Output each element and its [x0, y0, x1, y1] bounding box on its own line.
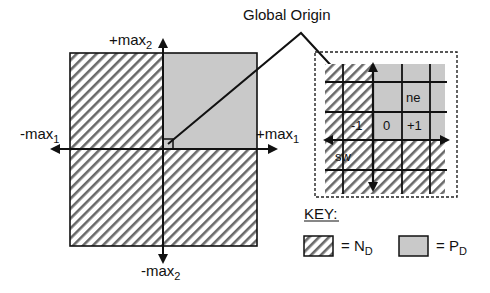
y-axis-neg-label: -max2	[141, 263, 180, 278]
cell-ne: ne	[406, 91, 420, 104]
diagram-canvas	[0, 0, 490, 293]
cell-minus-one: -1	[351, 119, 363, 132]
y-axis-pos-label: +max2	[109, 32, 152, 47]
cell-zero: 0	[383, 119, 390, 132]
key-swatch-shaded	[399, 236, 428, 256]
positive-quadrant	[163, 53, 257, 149]
cell-plus-one: +1	[407, 119, 422, 132]
cell-sw: sw	[335, 150, 351, 163]
key-swatch-hatched	[304, 236, 333, 256]
key-title: KEY:	[304, 206, 337, 221]
key-label-pd: = PD	[436, 238, 467, 253]
x-axis-pos-label: +max1	[256, 126, 299, 141]
key-label-nd: = ND	[341, 238, 373, 253]
x-axis-neg-label: -max1	[20, 126, 59, 141]
global-origin-label: Global Origin	[243, 7, 331, 22]
